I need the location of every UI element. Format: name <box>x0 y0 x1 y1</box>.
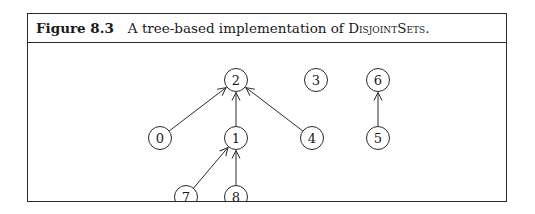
node-label: 5 <box>374 131 382 146</box>
caption-suffix: . <box>425 20 429 36</box>
figure-label: Figure 8.3 <box>36 20 114 36</box>
nodes-layer: 236014578 <box>149 69 390 202</box>
tree-diagram-svg: 236014578 <box>28 43 505 201</box>
caption-class-name: DisjointSets <box>348 20 425 36</box>
caption-prefix: A tree-based implementation of <box>128 20 348 36</box>
node-label: 0 <box>156 131 164 146</box>
edges-layer <box>169 88 378 189</box>
figure-caption: Figure 8.3 A tree-based implementation o… <box>28 14 506 43</box>
figure-frame: Figure 8.3 A tree-based implementation o… <box>27 13 507 202</box>
node-label: 7 <box>182 190 190 202</box>
node-8: 8 <box>225 186 248 202</box>
edge-7-to-1 <box>193 148 227 189</box>
edge-4-to-2 <box>246 88 303 131</box>
caption-text: A tree-based implementation of DisjointS… <box>128 20 430 36</box>
node-1: 1 <box>225 127 248 150</box>
edge-0-to-2 <box>169 88 226 131</box>
node-5: 5 <box>367 127 390 150</box>
node-label: 1 <box>232 131 240 146</box>
node-2: 2 <box>225 69 248 92</box>
node-label: 6 <box>374 73 382 88</box>
node-label: 4 <box>308 131 316 146</box>
node-label: 3 <box>312 73 320 88</box>
tree-diagram: 236014578 <box>28 43 506 201</box>
node-label: 2 <box>232 73 240 88</box>
node-0: 0 <box>149 127 172 150</box>
node-4: 4 <box>301 127 324 150</box>
node-label: 8 <box>232 190 240 202</box>
node-6: 6 <box>367 69 390 92</box>
node-3: 3 <box>305 69 328 92</box>
